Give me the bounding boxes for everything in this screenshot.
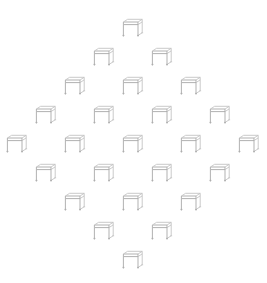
chair-icon [179, 74, 203, 98]
chair-icon [208, 161, 232, 185]
chair-icon [34, 103, 58, 127]
chair-icon [5, 132, 29, 156]
chair-icon [121, 74, 145, 98]
chair-icon [121, 132, 145, 156]
chair-icon [150, 103, 174, 127]
chair-icon [92, 103, 116, 127]
chair-icon [121, 248, 145, 272]
icon-grid-canvas [0, 0, 267, 283]
chair-icon [150, 161, 174, 185]
chair-icon [121, 16, 145, 40]
chair-icon [150, 45, 174, 69]
chair-icon [179, 190, 203, 214]
chair-icon [237, 132, 261, 156]
chair-icon [63, 74, 87, 98]
chair-icon [208, 103, 232, 127]
chair-icon [63, 190, 87, 214]
chair-icon [34, 161, 58, 185]
chair-icon [92, 161, 116, 185]
chair-icon [92, 45, 116, 69]
chair-icon [92, 219, 116, 243]
chair-icon [150, 219, 174, 243]
chair-icon [63, 132, 87, 156]
chair-icon [179, 132, 203, 156]
chair-icon [121, 190, 145, 214]
